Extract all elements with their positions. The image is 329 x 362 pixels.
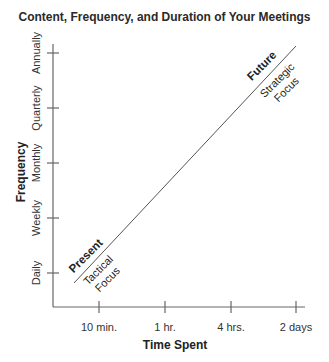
y-tick-quarterly: Quarterly	[30, 85, 42, 130]
x-tick-1hr: 1 hr.	[154, 321, 175, 333]
y-tick-weekly: Weekly	[30, 200, 42, 236]
chart-axes	[0, 0, 329, 362]
x-tick-4hrs: 4 hrs.	[217, 321, 245, 333]
x-tick-10min: 10 min.	[81, 321, 117, 333]
y-tick-daily: Daily	[30, 261, 42, 285]
x-axis-label: Time Spent	[143, 338, 207, 352]
y-axis-label: Frequency	[14, 142, 28, 203]
y-tick-monthly: Monthly	[30, 144, 42, 183]
trend-line	[74, 46, 296, 283]
x-tick-2days: 2 days	[280, 321, 312, 333]
y-tick-annually: Annually	[30, 32, 42, 74]
